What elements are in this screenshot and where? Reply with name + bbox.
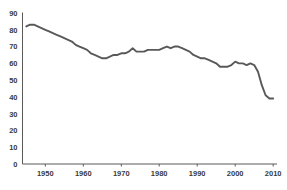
x-tick-label: 1960 [75,169,92,178]
x-tick-label: 2010 [265,169,282,178]
line-chart-plot: 9080706050403020100 19501960197019801990… [0,0,287,190]
y-tick-label: 70 [9,42,17,51]
y-tick-label: 50 [9,76,17,85]
series-line-series-1 [26,25,273,99]
y-tick-label: 20 [9,126,17,135]
y-tick-label: 60 [9,59,17,68]
x-tick-label: 1970 [113,169,130,178]
y-tick-label: 30 [9,110,17,119]
chart-container: 9080706050403020100 19501960197019801990… [0,0,287,190]
y-tick-label: 10 [9,143,17,152]
x-tick-label: 1980 [151,169,168,178]
y-tick-label: 40 [9,93,17,102]
data-series-group [26,25,273,99]
x-axis-tick-labels: 1950196019701980199020002010 [37,164,282,178]
x-tick-label: 1990 [189,169,206,178]
y-tick-label: 80 [9,26,17,35]
y-axis-tick-labels: 9080706050403020100 [9,9,17,169]
y-tick-label: 90 [9,9,17,18]
x-tick-label: 1950 [37,169,54,178]
x-tick-label: 2000 [227,169,244,178]
y-tick-label: 0 [13,160,17,169]
